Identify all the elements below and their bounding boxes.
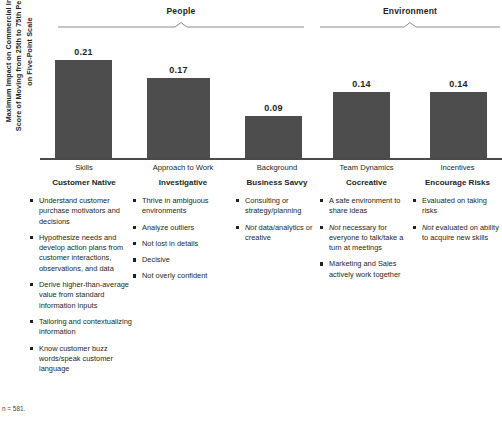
column-category-label: Team Dynamics (320, 162, 413, 173)
bar-incentives (430, 92, 487, 158)
bullet-text: Not lost in details (142, 239, 198, 248)
bar-value-label: 0.09 (245, 103, 302, 113)
group-label-environment: Environment (320, 6, 500, 16)
footnote: n = 581. (2, 404, 332, 413)
column-title: Encourage Risks (413, 177, 502, 188)
bar-value-label: 0.14 (430, 79, 487, 89)
bar-value-label: 0.17 (147, 65, 210, 75)
column-category-label: Skills (30, 162, 138, 173)
bullet-square-icon (236, 226, 239, 229)
bullet-item: Tailoring and contextualizing informatio… (30, 317, 138, 338)
bullet-emphasis: Not (245, 223, 257, 232)
bullet-square-icon (30, 199, 33, 202)
bar-value-label: 0.14 (333, 79, 390, 89)
column-category-label: Approach to Work (133, 162, 233, 173)
bullet-item: Decisive (133, 255, 233, 265)
column-investigative: Approach to WorkInvestigativeThrive in a… (133, 162, 233, 288)
attribute-columns: SkillsCustomer NativeUnderstand customer… (0, 162, 502, 402)
bullet-item: Know customer buzz words/speak customer … (30, 344, 138, 375)
bullet-square-icon (30, 347, 33, 350)
bullet-text: necessary for everyone to talk/take a tu… (329, 223, 403, 253)
bar-approach-to-work (147, 78, 210, 158)
bullet-item: A safe environment to share ideas (320, 196, 413, 217)
bullet-square-icon (320, 226, 323, 229)
bar-value-label: 0.21 (55, 47, 112, 57)
column-category-label: Incentives (413, 162, 502, 173)
column-cocreative: Team DynamicsCocreativeA safe environmen… (320, 162, 413, 286)
bullet-square-icon (413, 226, 416, 229)
bar-background (245, 116, 302, 158)
bar-team-dynamics (333, 92, 390, 158)
bullet-item: Marketing and Sales actively work togeth… (320, 259, 413, 280)
bullet-text: evaluated on ability to acquire new skil… (422, 223, 499, 242)
group-label-people: People (58, 6, 304, 16)
bullet-square-icon (30, 236, 33, 239)
bullet-item: Derive higher-than-average value from st… (30, 280, 138, 311)
bullet-list: A safe environment to share ideasNot nec… (320, 196, 413, 280)
bullet-square-icon (133, 226, 136, 229)
bullet-item: Not data/analytics or creative (236, 223, 318, 244)
bullet-item: Not lost in details (133, 239, 233, 249)
x-axis-baseline (40, 158, 502, 160)
group-band-people: People (58, 0, 304, 26)
bullet-emphasis: Not (422, 223, 434, 232)
bullet-item: Evaluated on taking risks (413, 196, 502, 217)
bullet-list: Thrive in ambiguous environmentsAnalyze … (133, 196, 233, 282)
bullet-square-icon (236, 199, 239, 202)
column-business-savvy: BackgroundBusiness SavvyConsulting or st… (236, 162, 318, 249)
bullet-item: Thrive in ambiguous environments (133, 196, 233, 217)
bullet-square-icon (133, 274, 136, 277)
column-encourage-risks: IncentivesEncourage RisksEvaluated on ta… (413, 162, 502, 249)
bullet-text: Thrive in ambiguous environments (142, 196, 209, 215)
column-title: Customer Native (30, 177, 138, 188)
bullet-text: A safe environment to share ideas (329, 196, 401, 215)
bullet-item: Not evaluated on ability to acquire new … (413, 223, 502, 244)
footnote-sample-size: n = 581. (2, 404, 332, 413)
bullet-square-icon (320, 199, 323, 202)
bullet-list: Evaluated on taking risksNot evaluated o… (413, 196, 502, 243)
bullet-item: Not necessary for everyone to talk/take … (320, 223, 413, 254)
bullet-item: Understand customer purchase motivators … (30, 196, 138, 227)
column-title: Investigative (133, 177, 233, 188)
bullet-list: Understand customer purchase motivators … (30, 196, 138, 374)
group-band-environment: Environment (320, 0, 500, 26)
bullet-text: Marketing and Sales actively work togeth… (329, 259, 400, 278)
bullet-text: Hypothesize needs and develop action pla… (39, 233, 123, 273)
column-category-label: Background (236, 162, 318, 173)
bullet-text: Know customer buzz words/speak customer … (39, 344, 113, 374)
bullet-square-icon (30, 283, 33, 286)
bullet-text: Evaluated on taking risks (422, 196, 487, 215)
bullet-text: Not overly confident (142, 271, 207, 280)
bullet-text: Tailoring and contextualizing informatio… (39, 317, 132, 336)
bullet-emphasis: Not (329, 223, 341, 232)
column-customer-native: SkillsCustomer NativeUnderstand customer… (30, 162, 138, 380)
bullet-square-icon (133, 258, 136, 261)
column-title: Business Savvy (236, 177, 318, 188)
bullet-square-icon (133, 242, 136, 245)
bullet-text: Derive higher-than-average value from st… (39, 280, 129, 310)
bullet-square-icon (320, 262, 323, 265)
column-title: Cocreative (320, 177, 413, 188)
bullet-text: Decisive (142, 255, 170, 264)
bullet-text: Consulting or strategy/planning (245, 196, 301, 215)
bar-chart-plot: 0.210.170.090.140.14 (0, 28, 502, 160)
bullet-square-icon (30, 320, 33, 323)
bullet-item: Hypothesize needs and develop action pla… (30, 233, 138, 274)
bullet-square-icon (133, 199, 136, 202)
bullet-item: Not overly confident (133, 271, 233, 281)
bullet-item: Consulting or strategy/planning (236, 196, 318, 217)
bar-skills (55, 60, 112, 158)
bullet-item: Analyze outliers (133, 223, 233, 233)
bullet-list: Consulting or strategy/planningNot data/… (236, 196, 318, 243)
bullet-text: Understand customer purchase motivators … (39, 196, 120, 226)
bullet-square-icon (413, 199, 416, 202)
bullet-text: Analyze outliers (142, 223, 194, 232)
